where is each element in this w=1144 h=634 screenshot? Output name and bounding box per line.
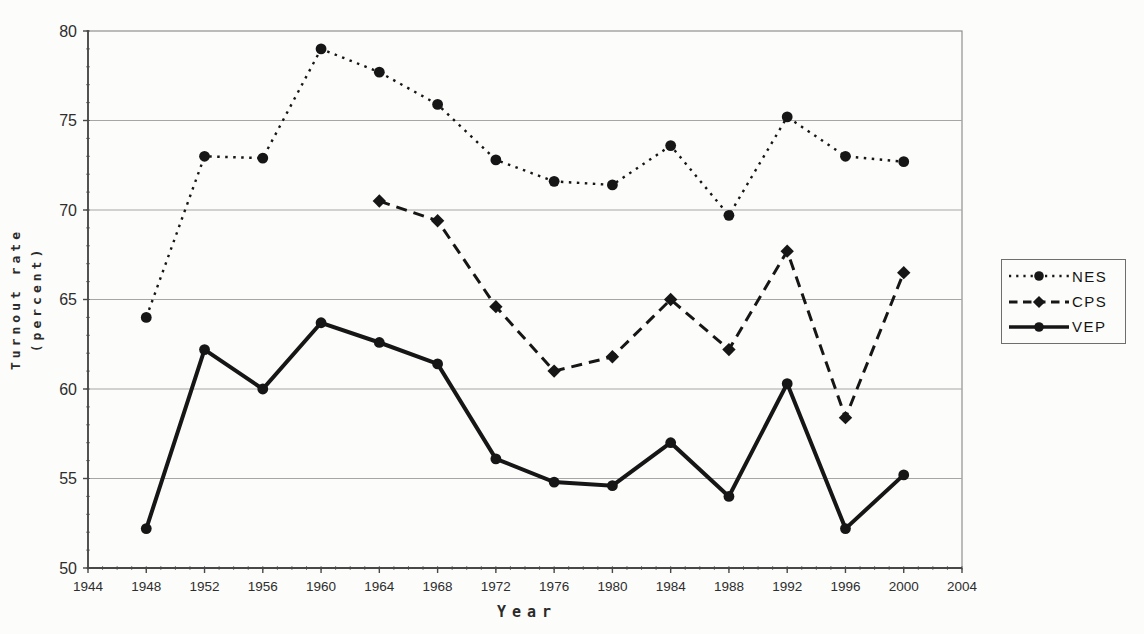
data-point-diamond: [722, 343, 735, 356]
y-axis-title-line2: (percent): [26, 246, 47, 352]
data-point-circle: [607, 480, 618, 491]
y-tick-label: 55: [59, 470, 77, 487]
legend-row: NES: [1007, 265, 1123, 287]
data-point-diamond: [781, 244, 794, 257]
data-point-circle: [782, 112, 793, 123]
data-point-circle: [1034, 322, 1044, 332]
y-tick-label: 80: [59, 23, 77, 40]
data-point-circle: [432, 99, 443, 110]
x-tick-label: 1980: [597, 579, 627, 594]
y-tick-label: 60: [59, 381, 77, 398]
data-point-circle: [840, 151, 851, 162]
data-point-circle: [665, 437, 676, 448]
data-point-diamond: [373, 194, 386, 207]
data-point-circle: [665, 140, 676, 151]
data-point-circle: [199, 344, 210, 355]
data-point-circle: [782, 378, 793, 389]
data-point-diamond: [897, 266, 910, 279]
data-point-circle: [549, 477, 560, 488]
data-point-circle: [840, 523, 851, 534]
y-tick-label: 65: [59, 291, 77, 308]
legend-marker-VEP: [1034, 322, 1044, 332]
data-point-diamond: [839, 411, 852, 424]
data-point-diamond: [431, 214, 444, 227]
y-axis-title-line1: Turnout rate: [5, 228, 26, 370]
data-point-circle: [490, 154, 501, 165]
gridlines: [88, 121, 962, 479]
x-tick-label: 1956: [248, 579, 278, 594]
x-tick-label: 1996: [830, 579, 860, 594]
y-tick-label: 50: [59, 560, 77, 577]
x-tick-label: 1952: [190, 579, 220, 594]
data-point-circle: [316, 317, 327, 328]
series-line-CPS: [379, 201, 903, 418]
data-point-circle: [898, 470, 909, 481]
x-tick-label: 1964: [364, 579, 395, 594]
y-axis-title: Turnout rate (percent): [5, 228, 47, 370]
data-point-circle: [374, 67, 385, 78]
x-tick-label: 1984: [656, 579, 687, 594]
series-line-VEP: [146, 323, 903, 529]
data-point-circle: [257, 384, 268, 395]
data-point-circle: [1034, 271, 1044, 281]
x-tick-label: 1960: [306, 579, 336, 594]
legend-marker-NES: [1034, 271, 1044, 281]
legend-label: CPS: [1072, 293, 1107, 310]
y-tick-label: 75: [59, 112, 77, 129]
y-tick-label: 70: [59, 202, 77, 219]
legend-marker-CPS: [1033, 295, 1045, 307]
data-point-circle: [141, 523, 152, 534]
x-tick-label: 1988: [714, 579, 744, 594]
x-tick-labels: 1944194819521956196019641968197219761980…: [73, 579, 978, 594]
legend-label: VEP: [1072, 318, 1107, 335]
legend-sample-nes: [1007, 265, 1071, 287]
data-point-circle: [257, 153, 268, 164]
x-tick-label: 1944: [73, 579, 104, 594]
x-tick-label: 1948: [131, 579, 161, 594]
data-point-diamond: [1033, 295, 1045, 307]
data-point-diamond: [606, 350, 619, 363]
x-tick-label: 1972: [481, 579, 511, 594]
x-tick-label: 1968: [423, 579, 453, 594]
legend-sample-vep: [1007, 316, 1071, 338]
data-point-circle: [898, 156, 909, 167]
x-tick-label: 2004: [947, 579, 978, 594]
series-line-NES: [146, 49, 903, 318]
data-point-circle: [724, 210, 735, 221]
legend-label: NES: [1072, 268, 1107, 285]
x-tick-label: 1992: [772, 579, 802, 594]
data-point-circle: [316, 44, 327, 55]
x-axis-title: Year: [497, 603, 557, 621]
legend-row: VEP: [1007, 316, 1123, 338]
data-point-circle: [432, 359, 443, 370]
series-markers-VEP: [141, 317, 909, 534]
y-tick-labels: 50556065707580: [59, 23, 77, 577]
turnout-chart-figure: 5055606570758019441948195219561960196419…: [0, 0, 1144, 634]
data-point-diamond: [547, 364, 560, 377]
data-point-circle: [549, 176, 560, 187]
data-point-circle: [199, 151, 210, 162]
data-point-circle: [141, 312, 152, 323]
chart-svg: 5055606570758019441948195219561960196419…: [0, 0, 1144, 634]
data-point-circle: [374, 337, 385, 348]
legend-row: CPS: [1007, 291, 1123, 313]
series-markers-NES: [141, 44, 909, 323]
x-tick-label: 2000: [889, 579, 919, 594]
legend: NES CPS VEP: [1001, 259, 1126, 344]
x-tick-label: 1976: [539, 579, 569, 594]
legend-sample-cps: [1007, 291, 1071, 313]
data-point-circle: [607, 180, 618, 191]
data-point-circle: [724, 491, 735, 502]
data-point-circle: [490, 453, 501, 464]
